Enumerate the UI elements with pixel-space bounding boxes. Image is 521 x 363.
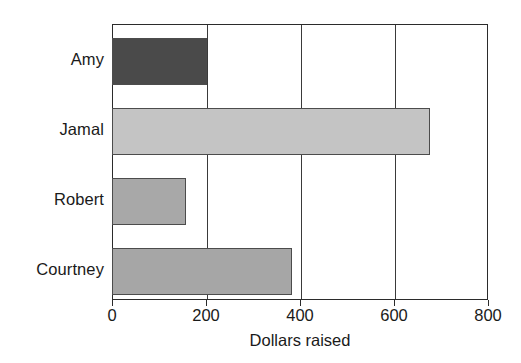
bar-robert[interactable]	[112, 178, 186, 225]
y-tick-label-amy: Amy	[0, 50, 104, 69]
x-tick-label-200: 200	[192, 306, 220, 325]
gridline-400	[301, 25, 302, 299]
x-axis-labels: 0 200 400 600 800	[0, 306, 521, 330]
x-axis-title: Dollars raised	[112, 331, 488, 350]
bar-jamal[interactable]	[112, 108, 430, 155]
bar-chart-figure: Amy Jamal Robert Courtney 0 200 400 600 …	[0, 0, 521, 363]
bar-courtney[interactable]	[112, 248, 292, 295]
x-tick-label-400: 400	[286, 306, 314, 325]
bar-amy[interactable]	[112, 38, 207, 85]
y-tick-label-courtney: Courtney	[0, 260, 104, 279]
y-tick-label-jamal: Jamal	[0, 120, 104, 139]
x-tick-label-0: 0	[107, 306, 116, 325]
gridline-600	[395, 25, 396, 299]
x-tick-label-600: 600	[380, 306, 408, 325]
y-axis-labels: Amy Jamal Robert Courtney	[0, 24, 104, 300]
plot-area	[112, 24, 488, 300]
y-tick-label-robert: Robert	[0, 190, 104, 209]
x-tick-label-800: 800	[474, 306, 502, 325]
